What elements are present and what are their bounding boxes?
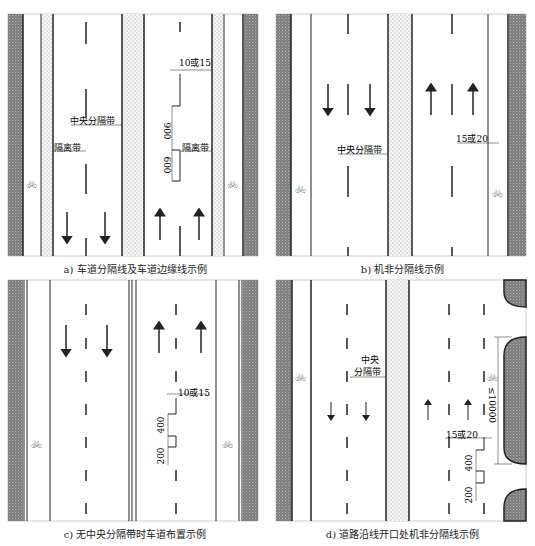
- median-label-line2: 分隔带: [354, 365, 381, 378]
- panel-a: 中央分隔带 隔离带 隔离带 10或15 900 600 🚲 🚲 a) 车道分隔线…: [0, 0, 270, 275]
- dash-length-label: 200: [464, 486, 474, 503]
- separator-label-left: 隔离带: [54, 141, 81, 154]
- dash-length-label: 600: [162, 156, 172, 173]
- panel-c-diagram: [0, 275, 270, 525]
- width-label: 10或15: [179, 56, 211, 69]
- bicycle-icon-right: 🚲: [487, 371, 498, 381]
- panel-b-diagram: [270, 0, 535, 260]
- caption-a: a) 车道分隔线及车道边缘线示例: [0, 261, 270, 276]
- caption-b: b) 机非分隔线示例: [270, 261, 535, 276]
- median-label: 中央分隔带: [70, 114, 115, 127]
- median-label: 中央分隔带: [337, 143, 382, 156]
- bicycle-icon-left: 🚲: [295, 183, 306, 193]
- bicycle-icon-left: 🚲: [295, 371, 306, 381]
- panel-d: 中央 分隔带 15或20 400 200 ≤10000 🚲 🚲 d) 道路沿线开…: [270, 275, 535, 546]
- separator-left: [42, 14, 52, 256]
- width-label: 10或15: [178, 386, 210, 399]
- bicycle-icon-right: 🚲: [222, 438, 233, 448]
- bicycle-icon-left: 🚲: [26, 178, 37, 188]
- bicycle-icon-right: 🚲: [492, 187, 503, 197]
- gap-length-label: 400: [464, 454, 474, 471]
- panel-b: 中央分隔带 15或20 🚲 🚲 b) 机非分隔线示例: [270, 0, 535, 275]
- opening-length-label: ≤10000: [487, 387, 497, 423]
- central-median: [123, 14, 144, 256]
- panel-c: 10或15 400 200 🚲 🚲 c) 无中央分隔带时车道布置示例: [0, 275, 270, 546]
- width-label: 15或20: [456, 132, 488, 145]
- caption-c: c) 无中央分隔带时车道布置示例: [0, 526, 270, 541]
- gap-length-label: 900: [162, 122, 172, 139]
- curb-right: [244, 14, 258, 256]
- bicycle-icon-left: 🚲: [31, 438, 42, 448]
- dash-length-label: 200: [156, 447, 166, 464]
- panel-a-diagram: [0, 0, 270, 260]
- caption-d: d) 道路沿线开口处机非分隔线示例: [270, 526, 535, 541]
- gap-length-label: 400: [156, 416, 166, 433]
- separator-label-right: 隔离带: [182, 141, 209, 154]
- width-label: 15或20: [446, 428, 478, 441]
- bicycle-icon-right: 🚲: [227, 178, 238, 188]
- curb-left: [8, 14, 23, 256]
